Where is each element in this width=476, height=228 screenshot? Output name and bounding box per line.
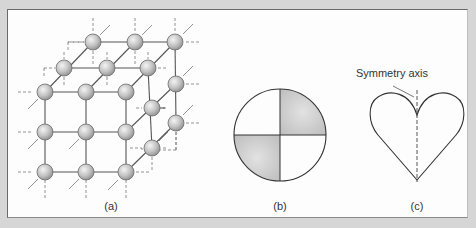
heart-shape	[370, 86, 464, 182]
quartered-circle	[234, 89, 326, 181]
label-c: (c)	[411, 200, 424, 212]
figure-svg: (a) (b) Symmetry axis (c)	[0, 0, 476, 228]
label-a: (a)	[104, 200, 117, 212]
leader-line	[393, 86, 414, 97]
label-b: (b)	[273, 200, 286, 212]
symmetry-axis-label: Symmetry axis	[356, 67, 429, 79]
